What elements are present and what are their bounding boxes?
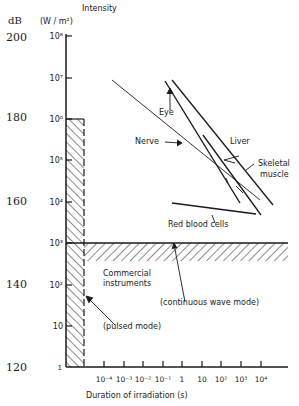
x-axis-title: Duration of irradiation (s) bbox=[86, 391, 188, 400]
red-blood-cells-line bbox=[172, 203, 256, 214]
x-tick-labels: 10⁻⁴ 10⁻³ 10⁻² 10⁻¹ 1 10 10² 10³ 10⁴ bbox=[96, 375, 268, 384]
svg-text:10⁷: 10⁷ bbox=[50, 74, 63, 83]
eye-label: Eye bbox=[159, 108, 174, 117]
svg-text:10⁶: 10⁶ bbox=[50, 115, 63, 124]
skeletal-label-2: muscle bbox=[260, 170, 289, 179]
svg-text:200: 200 bbox=[6, 31, 27, 44]
svg-text:10²: 10² bbox=[215, 375, 228, 384]
svg-text:1: 1 bbox=[58, 364, 62, 372]
y-axis-title: Intensity bbox=[82, 4, 117, 13]
liver-line bbox=[203, 135, 261, 215]
skeletal-muscle-line bbox=[172, 80, 273, 205]
svg-text:10⁻⁴: 10⁻⁴ bbox=[96, 375, 113, 384]
svg-text:180: 180 bbox=[6, 111, 27, 124]
y-axis-units: (W / m²) bbox=[40, 17, 73, 26]
x-ticks bbox=[104, 361, 261, 367]
svg-text:10⁴: 10⁴ bbox=[50, 198, 63, 207]
nerve-label: Nerve bbox=[135, 137, 159, 146]
red-blood-cells-label: Red blood cells bbox=[168, 220, 228, 229]
svg-text:120: 120 bbox=[6, 361, 27, 374]
pulsed-mode-label: (pulsed mode) bbox=[103, 322, 161, 331]
svg-text:10⁵: 10⁵ bbox=[50, 156, 63, 165]
svg-text:10³: 10³ bbox=[50, 239, 63, 248]
annotation-arrows bbox=[86, 88, 254, 325]
eye-line bbox=[165, 81, 240, 203]
cw-mode-label: (continuous wave mode) bbox=[160, 298, 259, 307]
svg-text:10: 10 bbox=[197, 375, 207, 384]
liver-label: Liver bbox=[230, 137, 250, 146]
svg-text:10²: 10² bbox=[50, 281, 63, 290]
chart-canvas: Intensity (W / m²) dB 200 180 160 140 12… bbox=[0, 0, 299, 406]
svg-text:140: 140 bbox=[6, 278, 27, 291]
y-tick-labels: 10⁸ 10⁷ 10⁶ 10⁵ 10⁴ 10³ 10² 10 1 bbox=[50, 32, 63, 372]
svg-text:1: 1 bbox=[180, 375, 185, 384]
svg-text:10³: 10³ bbox=[235, 375, 248, 384]
svg-text:10⁴: 10⁴ bbox=[255, 375, 268, 384]
cw-mode-region bbox=[84, 243, 288, 261]
svg-text:10⁻²: 10⁻² bbox=[135, 375, 152, 384]
commercial-label-2: instruments bbox=[103, 279, 151, 288]
svg-text:10⁻³: 10⁻³ bbox=[116, 375, 133, 384]
svg-text:10⁻¹: 10⁻¹ bbox=[155, 375, 172, 384]
db-axis-title: dB bbox=[8, 15, 22, 26]
db-tick-labels: 200 180 160 140 120 bbox=[6, 31, 27, 374]
commercial-label-1: Commercial bbox=[103, 269, 151, 278]
svg-text:10⁸: 10⁸ bbox=[50, 32, 63, 41]
svg-text:160: 160 bbox=[6, 195, 27, 208]
svg-text:10: 10 bbox=[53, 322, 63, 331]
skeletal-label-1: Skeletal bbox=[258, 159, 290, 168]
